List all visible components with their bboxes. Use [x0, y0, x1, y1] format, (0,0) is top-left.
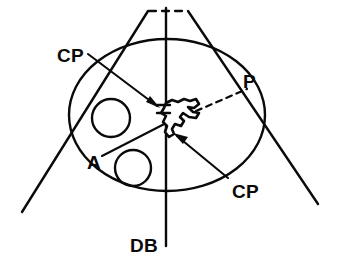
label-cp-lower: CP	[232, 181, 259, 202]
cone-right-ray	[188, 11, 318, 204]
diagram-canvas: CP P CP A DB	[0, 0, 345, 269]
diagram-svg: CP P CP A DB	[0, 0, 345, 269]
small-circle-upper	[92, 99, 130, 137]
label-a: A	[87, 152, 101, 173]
label-p: P	[243, 71, 256, 92]
label-cp-upper: CP	[57, 45, 84, 66]
cp-lower-leader-line	[177, 136, 228, 178]
cp-upper-leader-line	[88, 54, 157, 106]
dashed-leader-line-icon	[196, 89, 247, 111]
small-circle-lower	[115, 150, 151, 186]
arrow-pointing-right-down-icon	[146, 96, 160, 108]
label-db: DB	[130, 235, 158, 256]
